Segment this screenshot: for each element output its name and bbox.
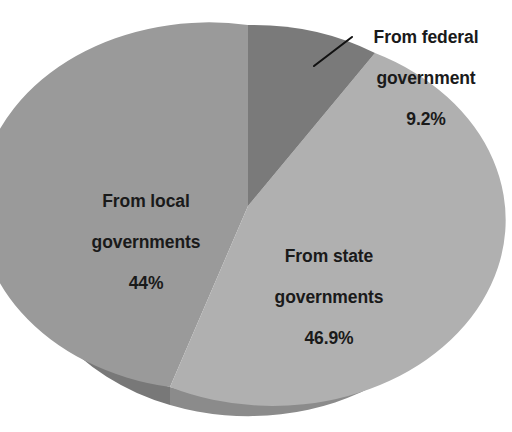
pie-top-face (0, 22, 506, 406)
pie-chart-graphic (0, 0, 512, 432)
pie-chart-figure: From local governments 44% From state go… (0, 0, 512, 432)
